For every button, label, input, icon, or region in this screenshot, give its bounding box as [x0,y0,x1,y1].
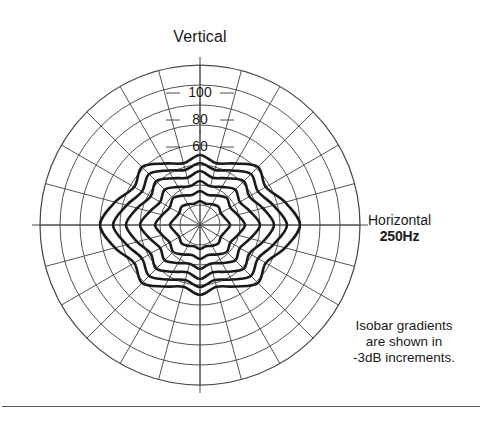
vertical-axis-label: Vertical [0,28,400,46]
isobar-note-block: Isobar gradients are shown in -3dB incre… [330,318,478,366]
horizontal-axis-label-block: Horizontal 250Hz [368,213,431,244]
radial-tick-60: 60 [180,138,220,154]
frequency-label: 250Hz [368,229,431,245]
isobar-note-line-2: are shown in [330,334,478,350]
isobar-note-line-3: -3dB increments. [330,350,478,366]
polar-grid [32,57,368,393]
isobar-note-line-1: Isobar gradients [330,318,478,334]
horizontal-axis-label: Horizontal [368,213,431,229]
footer-divider [2,406,480,407]
radial-tick-100: 100 [180,84,220,100]
polar-isobar-chart: Vertical 100 80 60 Horizontal 250Hz Isob… [0,0,482,422]
radial-tick-80: 80 [180,111,220,127]
